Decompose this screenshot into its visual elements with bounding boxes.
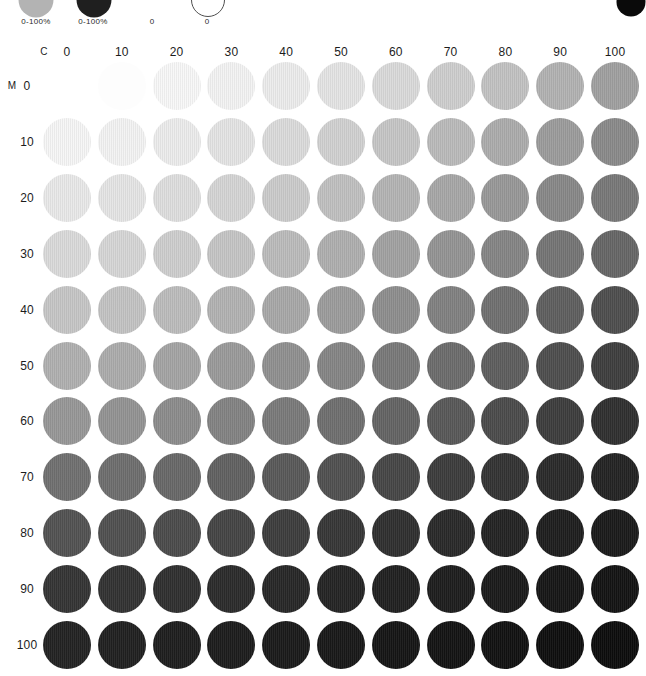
tint-cell <box>536 62 584 110</box>
tint-cell <box>98 621 146 669</box>
tint-cell <box>317 453 365 501</box>
tint-cell <box>427 286 475 334</box>
x-tick-label: 20 <box>170 46 184 58</box>
tint-cell <box>43 621 91 669</box>
tint-cell <box>43 565 91 613</box>
tint-cell <box>427 342 475 390</box>
tint-cell <box>591 230 639 278</box>
tint-cell <box>207 62 255 110</box>
magenta-scale-label: 0-100% <box>78 18 107 26</box>
x-tick-label: 50 <box>334 46 348 58</box>
tint-cell <box>591 118 639 166</box>
tint-cell <box>207 174 255 222</box>
tint-cell <box>427 174 475 222</box>
tint-cell <box>262 230 310 278</box>
tint-cell <box>153 174 201 222</box>
y-tick-label: 30 <box>20 248 34 260</box>
tint-cell <box>153 230 201 278</box>
x-tick-label: 60 <box>389 46 403 58</box>
tint-cell <box>427 565 475 613</box>
tint-cell <box>372 453 420 501</box>
tint-cell <box>317 230 365 278</box>
tint-cell <box>98 118 146 166</box>
tint-cell <box>98 62 146 110</box>
tint-cell <box>536 453 584 501</box>
tint-cell <box>481 174 529 222</box>
tint-cell <box>317 174 365 222</box>
tint-cell <box>207 621 255 669</box>
tint-cell <box>262 174 310 222</box>
tint-cell <box>262 621 310 669</box>
tint-cell <box>317 286 365 334</box>
tint-cell <box>591 565 639 613</box>
tint-cell <box>153 286 201 334</box>
tint-cell <box>536 509 584 557</box>
tint-cell <box>43 230 91 278</box>
tint-cell <box>317 397 365 445</box>
tint-cell <box>427 118 475 166</box>
tint-cell <box>98 230 146 278</box>
tint-cell <box>98 453 146 501</box>
y-tick-label: 40 <box>20 304 34 316</box>
tint-cell <box>317 565 365 613</box>
y-tick-label: 10 <box>20 136 34 148</box>
tint-cell <box>207 118 255 166</box>
tint-cell <box>207 565 255 613</box>
tint-cell <box>372 174 420 222</box>
tint-cell <box>153 453 201 501</box>
tint-cell <box>536 342 584 390</box>
tint-cell <box>43 453 91 501</box>
magenta-scale-swatch-circle <box>77 0 112 18</box>
tint-cell <box>262 286 310 334</box>
tint-cell <box>372 621 420 669</box>
tint-cell <box>207 397 255 445</box>
y-tick-label: 80 <box>20 527 34 539</box>
tint-cell <box>43 342 91 390</box>
tint-cell <box>98 565 146 613</box>
tint-cell <box>43 397 91 445</box>
tint-cell <box>98 509 146 557</box>
tint-cell <box>591 509 639 557</box>
tint-cell <box>372 342 420 390</box>
cmyk-tint-chart-page: 0-100% 0-100% 0 0 C M 010203040506070809… <box>0 0 646 676</box>
tint-cell <box>481 565 529 613</box>
tint-cell <box>481 118 529 166</box>
y-axis-letter: M <box>8 81 17 91</box>
tint-cell <box>591 286 639 334</box>
tint-cell <box>427 62 475 110</box>
tint-cell <box>536 286 584 334</box>
tint-cell <box>372 286 420 334</box>
tint-cell <box>262 397 310 445</box>
tint-cell <box>207 230 255 278</box>
y-tick-label: 60 <box>20 415 34 427</box>
tint-cell <box>427 397 475 445</box>
x-tick-label: 100 <box>605 46 626 58</box>
tint-cell <box>207 286 255 334</box>
cyan-scale-label: 0-100% <box>21 18 50 26</box>
x-tick-label: 90 <box>553 46 567 58</box>
tint-cell <box>372 565 420 613</box>
black-zero-swatch-circle <box>191 0 225 17</box>
tint-cell <box>427 509 475 557</box>
y-tick-label: 0 <box>24 80 31 92</box>
registration-dot <box>617 0 646 17</box>
tint-cell <box>536 565 584 613</box>
tint-cell <box>372 118 420 166</box>
y-tick-label: 100 <box>17 639 38 651</box>
tint-cell <box>481 397 529 445</box>
tint-cell <box>153 118 201 166</box>
tint-cell <box>372 230 420 278</box>
tint-cell <box>262 509 310 557</box>
tint-cell <box>43 118 91 166</box>
tint-cell <box>43 62 91 110</box>
x-tick-label: 80 <box>499 46 513 58</box>
tint-cell <box>372 397 420 445</box>
y-tick-label: 50 <box>20 360 34 372</box>
tint-cell <box>372 509 420 557</box>
tint-cell <box>317 342 365 390</box>
tint-cell <box>536 174 584 222</box>
tint-cell <box>98 286 146 334</box>
y-tick-label: 20 <box>20 192 34 204</box>
tint-cell <box>153 62 201 110</box>
tint-cell <box>481 621 529 669</box>
